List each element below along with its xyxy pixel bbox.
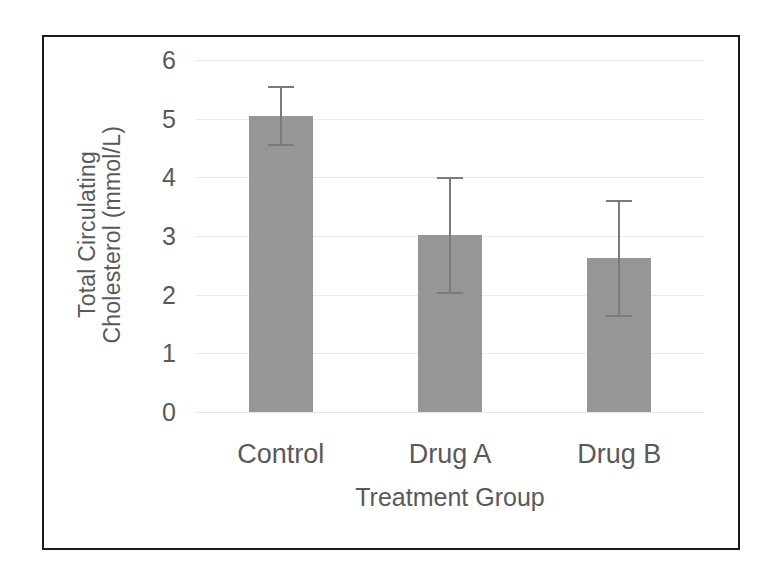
chart-figure: Total Circulating Cholesterol (mmol/L) 6… (0, 0, 779, 585)
y-axis-tick-label: 0 (162, 400, 176, 425)
y-axis-tick-label: 3 (162, 224, 176, 249)
y-axis-tick-label: 1 (162, 341, 176, 366)
plot-area (196, 60, 704, 412)
y-axis-tick-label: 6 (162, 48, 176, 73)
y-axis-tick-label: 5 (162, 106, 176, 131)
error-bar-cap-bottom (437, 292, 463, 294)
error-bar-cap-top (606, 200, 632, 202)
x-axis-title: Treatment Group (196, 484, 704, 512)
error-bar-stem (618, 200, 620, 317)
x-axis-tick-labels: ControlDrug ADrug B (196, 440, 704, 480)
bar-group[interactable] (535, 60, 704, 412)
y-axis-tick-labels: 6543210 (144, 35, 176, 435)
error-bar (268, 86, 294, 146)
error-bar-stem (280, 86, 282, 146)
bar-group[interactable] (365, 60, 534, 412)
error-bar (437, 177, 463, 294)
y-axis-tick-label: 4 (162, 165, 176, 190)
error-bar-cap-top (437, 177, 463, 179)
bar-group[interactable] (196, 60, 365, 412)
error-bar-cap-top (268, 86, 294, 88)
y-axis-tick-label: 2 (162, 282, 176, 307)
error-bar-cap-bottom (606, 315, 632, 317)
y-axis-title-line-2: Cholesterol (mmol/L) (101, 126, 124, 343)
error-bar (606, 200, 632, 317)
bar[interactable] (249, 116, 313, 412)
y-axis-title-line-1: Total Circulating (76, 151, 99, 318)
error-bar-cap-bottom (268, 144, 294, 146)
error-bar-stem (449, 177, 451, 294)
x-axis-tick-label: Drug B (535, 440, 704, 470)
y-axis-title: Total Circulating Cholesterol (mmol/L) (52, 35, 148, 435)
x-axis-tick-label: Control (196, 440, 365, 470)
x-axis-tick-label: Drug A (365, 440, 534, 470)
gridline (196, 412, 704, 413)
